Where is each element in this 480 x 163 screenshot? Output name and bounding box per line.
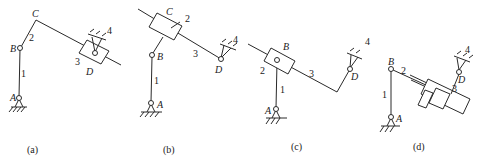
ground-d-c-icon: [347, 48, 362, 68]
caption-b: (b): [163, 144, 175, 156]
label-b: B: [157, 51, 163, 62]
label-a: A: [156, 99, 164, 110]
pin-b-d: [389, 67, 394, 72]
cylinder-neck-d: [418, 90, 433, 108]
pin-d-a: [93, 51, 98, 56]
link-2-d-rod-top: [393, 70, 428, 86]
label-d: D: [85, 66, 94, 77]
link-1-a: [19, 49, 20, 97]
label-b: B: [283, 41, 289, 52]
label-link-2: 2: [29, 32, 34, 43]
label-link-4: 4: [365, 36, 370, 47]
label-d: D: [457, 74, 466, 85]
pin-a-a: [17, 96, 22, 101]
label-c: C: [32, 8, 39, 19]
label-link-4: 4: [465, 44, 470, 55]
label-link-4: 4: [107, 25, 112, 36]
label-a: A: [395, 113, 403, 124]
label-link-4: 4: [233, 34, 238, 45]
link-3-b: [138, 9, 221, 59]
mechanism-diagram: C B A D 1 2 3 4 (a): [0, 0, 480, 163]
label-link-3: 3: [75, 56, 80, 67]
link-3-c-bend: [337, 69, 350, 92]
caption-a: (a): [27, 144, 38, 156]
pin-a-d: [389, 115, 394, 120]
pin-a-c: [274, 107, 279, 112]
label-d: D: [350, 71, 359, 82]
caption-c: (c): [291, 141, 302, 153]
label-link-3: 3: [193, 48, 198, 59]
label-link-3: 3: [452, 83, 457, 94]
label-b: B: [388, 56, 394, 67]
label-link-1: 1: [382, 89, 387, 100]
label-c: C: [166, 6, 173, 17]
link-1-b: [151, 57, 152, 102]
panel-b: C B A D 1 2 3 4 (b): [138, 6, 238, 156]
link-1-c: [276, 62, 277, 108]
label-link-1: 1: [154, 75, 159, 86]
panel-d: B A D 1 2 3 4 (d): [380, 44, 473, 153]
pin-b-c: [275, 58, 280, 63]
label-link-1: 1: [280, 84, 285, 95]
pin-b-b: [150, 53, 155, 58]
pin-b-a: [18, 46, 23, 51]
label-link-1: 1: [21, 68, 26, 79]
label-a: A: [264, 105, 272, 116]
label-d: D: [214, 64, 223, 75]
label-link-2: 2: [401, 65, 406, 76]
label-b: B: [10, 43, 16, 54]
label-link-3: 3: [309, 68, 314, 79]
pin-d-b: [219, 57, 224, 62]
slider-block-b: [149, 13, 182, 40]
caption-d: (d): [413, 141, 425, 153]
ground-d-d-icon: [454, 51, 473, 70]
label-link-2: 2: [185, 13, 190, 24]
label-link-2: 2: [260, 65, 265, 76]
pin-a-b: [149, 101, 154, 106]
label-a: A: [9, 92, 17, 103]
panel-c: B A D 1 2 3 4 (c): [248, 36, 370, 153]
panel-a: C B A D 1 2 3 4 (a): [9, 8, 121, 156]
